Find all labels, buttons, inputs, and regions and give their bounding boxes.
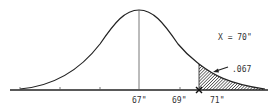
normal-curve-diagram: 67" 69" 71" X = 70" .067 — [0, 0, 276, 110]
shaded-area-label: .067 — [232, 65, 251, 74]
arrow-icon — [213, 67, 228, 73]
tick-label-67: 67" — [132, 96, 146, 105]
tick-label-69: 69" — [172, 96, 186, 105]
bell-curve — [20, 10, 265, 89]
x-value-label: X = 70" — [218, 33, 252, 42]
tick-label-71: 71" — [210, 96, 224, 105]
